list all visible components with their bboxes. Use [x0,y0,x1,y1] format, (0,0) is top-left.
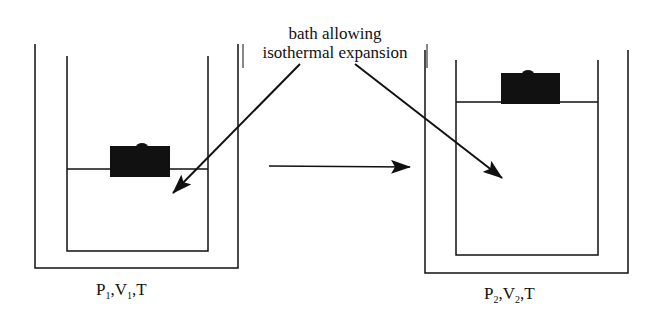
final-piston [501,70,560,104]
initial-piston [110,143,170,177]
annotation-arrow-right [355,64,502,178]
annotation-line-1: bath allowing [244,24,426,43]
final-state-label: P2,V2,T [484,284,535,305]
annotation-arrow-left [173,64,300,193]
bath-annotation: bath allowing isothermal expansion [244,24,426,62]
annotation-line-2: isothermal expansion [244,43,426,62]
process-arrow [269,166,410,167]
initial-state-label: P1,V1,T [96,280,147,301]
